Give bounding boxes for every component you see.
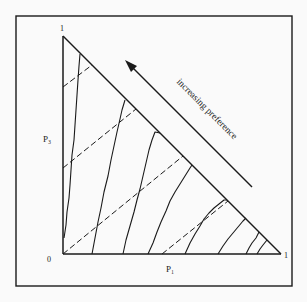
indifference-curve [92,100,125,254]
indifference-curves [64,54,267,254]
arrow-label: increasing preference [175,77,240,142]
y-axis-label: P₃ [43,134,51,144]
origin-label: 0 [47,255,51,264]
indifference-curve [148,165,192,254]
y-max-label: 1 [60,24,64,33]
triangle [63,36,281,254]
x-max-label: 1 [284,251,288,260]
arrow-line [130,65,252,187]
dashed-lines [63,65,228,254]
dashed-line [162,201,228,254]
indifference-curve [185,200,227,254]
indifference-curve [257,240,267,254]
dashed-line [63,156,183,254]
indifference-curve [246,232,259,254]
indifference-curve [123,132,160,254]
hypotenuse [63,36,281,254]
x-axis-label: P₁ [166,264,174,274]
preference-arrow [125,60,252,187]
probability-triangle-diagram: increasing preference 1 1 0 P₃ P₁ [0,0,307,302]
indifference-curve [64,54,80,238]
indifference-curve [218,218,246,254]
